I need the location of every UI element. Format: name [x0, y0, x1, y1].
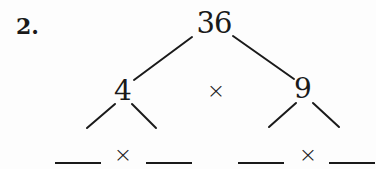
branch-root-to-left	[134, 37, 192, 80]
branch-right-to-child-1	[269, 103, 296, 127]
factor-tree-problem: 2. 36 4 × 9 × ×	[0, 0, 376, 169]
tree-root-value: 36	[189, 8, 239, 38]
branch-left-to-child-2	[132, 104, 156, 128]
answer-blank-left-2[interactable]	[146, 162, 192, 164]
multiply-sign: ×	[204, 80, 228, 102]
branch-right-to-child-2	[313, 103, 339, 127]
answer-blank-left-1[interactable]	[55, 162, 101, 164]
right-factor-value: 9	[278, 74, 328, 104]
branch-left-to-child-1	[87, 104, 115, 128]
answer-blank-right-1[interactable]	[238, 162, 284, 164]
left-factor-value: 4	[98, 76, 148, 106]
answer-blank-right-2[interactable]	[329, 162, 375, 164]
branch-root-to-right	[233, 36, 294, 79]
multiply-sign-left: ×	[111, 144, 135, 166]
multiply-sign-right: ×	[296, 144, 320, 166]
problem-number: 2.	[16, 12, 39, 40]
